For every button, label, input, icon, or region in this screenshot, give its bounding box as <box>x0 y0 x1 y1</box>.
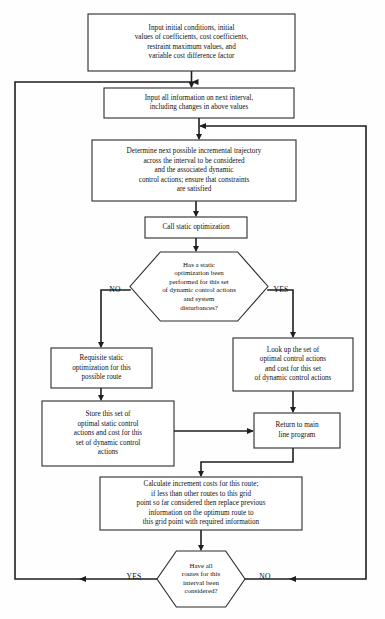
connector-conn-lookup-to-return <box>290 391 296 413</box>
connector-conn-determine-to-call <box>193 201 199 217</box>
node-text-line: Call static optimization <box>162 223 229 231</box>
branch-label-decision1-yes: YES <box>274 285 289 294</box>
node-text-line: disturbances? <box>180 304 218 311</box>
node-text-line: performed for this set <box>169 278 229 285</box>
node-text-line: values of coefficients, cost coefficient… <box>135 33 249 41</box>
node-text-line: possible route <box>81 373 121 381</box>
node-text-line: of dynamic control actions <box>255 374 332 382</box>
node-store-optimal-static-control-actions: Store this set ofoptimal static controla… <box>42 401 174 466</box>
node-text-line: actions and cost for this <box>74 429 142 437</box>
node-text-line: restraint maximum values, and <box>147 43 236 51</box>
node-have-all-routes-been-considered: Have allroutes for thisinterval beencons… <box>157 551 245 607</box>
node-text-line: point so far considered then replace pre… <box>137 499 266 507</box>
connector-conn-requisite-to-store <box>98 388 104 401</box>
node-text-line: line program <box>279 431 316 439</box>
node-text-line: including changes in above values <box>150 103 249 111</box>
node-text-line: Input all information on next interval, <box>145 94 254 102</box>
node-text-line: optimal static control <box>77 420 138 428</box>
node-text-line: interval been <box>183 579 219 586</box>
branch-label-decision1-no: NO <box>109 285 121 294</box>
node-text-line: and the associated dynamic <box>155 166 234 174</box>
node-text-line: considered? <box>185 587 218 594</box>
node-determine-trajectory: Determine next possible incremental traj… <box>92 140 296 201</box>
node-return-to-main-line-program: Return to mainline program <box>254 413 340 448</box>
node-text-line: this grid point with required informatio… <box>143 518 260 526</box>
node-text-line: routes for this <box>182 570 221 577</box>
node-text-line: across the interval to be considered <box>143 157 245 165</box>
node-call-static-optimization: Call static optimization <box>145 217 247 238</box>
node-text-line: variable cost difference factor <box>149 52 235 60</box>
connector-conn-store-to-return <box>174 428 254 434</box>
node-text-line: and cost for this set <box>265 365 321 373</box>
node-text-line: actions <box>98 448 119 456</box>
node-text-line: Store this set of <box>86 410 132 418</box>
node-text-line: set of dynamic control <box>76 439 140 447</box>
node-input-next-interval: Input all information on next interval,i… <box>104 88 294 118</box>
node-text-line: Look up the set of <box>267 346 320 354</box>
node-text-line: optimization for this <box>72 364 131 372</box>
node-text-line: Calculate increment costs for this route… <box>144 480 259 488</box>
node-text-line: Return to main <box>275 421 319 429</box>
node-text-line: optimal control actions <box>260 355 326 363</box>
node-input-initial-conditions: Input initial conditions, initialvalues … <box>88 14 295 71</box>
connector-conn-input-to-interval <box>189 71 195 88</box>
flowchart-canvas: Input initial conditions, initialvalues … <box>0 0 385 619</box>
flowchart-svg: Input initial conditions, initialvalues … <box>0 0 385 619</box>
node-text-line: Have all <box>189 562 212 569</box>
node-text-line: Input initial conditions, initial <box>149 24 235 32</box>
node-text-line: optimization been <box>174 269 224 276</box>
node-text-line: information on the optimum route to <box>148 509 254 517</box>
branch-label-decision2-yes: YES <box>127 572 142 581</box>
node-text-line: Requisite static <box>79 354 123 362</box>
node-has-static-optimization-been-performed: Has a staticoptimization beenperformed f… <box>130 252 268 321</box>
node-calculate-increment-costs: Calculate increment costs for this route… <box>100 477 302 530</box>
node-requisite-static-optimization: Requisite staticoptimization for thispos… <box>51 348 152 388</box>
node-text-line: if less than other routes to this grid <box>151 490 251 498</box>
node-text-line: of dynamic control actions <box>162 286 236 293</box>
branch-label-decision2-no: NO <box>259 572 271 581</box>
connector-conn-call-to-decision1 <box>193 238 199 252</box>
connector-conn-decision1-no <box>98 290 130 348</box>
node-text-line: and system <box>184 295 215 302</box>
connector-conn-return-to-calculate <box>198 448 293 477</box>
node-text-line: Determine next possible incremental traj… <box>127 147 262 155</box>
node-text-line: are satisfied <box>177 185 212 193</box>
node-look-up-optimal-control-actions: Look up the set ofoptimal control action… <box>233 338 353 391</box>
node-text-line: Has a static <box>183 261 215 268</box>
connector-conn-calculate-to-decision2 <box>198 530 204 551</box>
node-layer: Input initial conditions, initialvalues … <box>42 14 353 607</box>
connector-conn-interval-to-determine <box>196 118 202 140</box>
node-text-line: control actions; ensure that constraints <box>139 176 250 184</box>
connector-conn-decision1-yes <box>268 290 296 338</box>
